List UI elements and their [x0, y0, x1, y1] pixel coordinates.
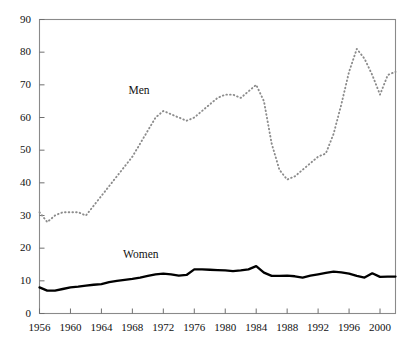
y-tick-label: 60 — [3, 112, 31, 123]
y-tick-label: 0 — [3, 308, 31, 319]
chart-container: 0102030405060708090 19561960196419681972… — [0, 0, 419, 354]
y-tick-label: 20 — [3, 242, 31, 253]
series-label-women: Women — [123, 248, 158, 260]
x-tick-label: 2000 — [360, 322, 400, 333]
y-tick-label: 10 — [3, 275, 31, 286]
y-tick-label: 90 — [3, 14, 31, 25]
series-line-women — [40, 266, 396, 291]
y-tick-label: 80 — [3, 46, 31, 57]
y-tick-label: 30 — [3, 210, 31, 221]
line-chart-plot — [0, 0, 419, 354]
data-series-group — [40, 49, 396, 291]
y-tick-label: 70 — [3, 79, 31, 90]
series-label-men: Men — [129, 84, 150, 96]
y-tick-label: 50 — [3, 144, 31, 155]
y-tick-label: 40 — [3, 177, 31, 188]
series-line-men — [40, 49, 396, 222]
